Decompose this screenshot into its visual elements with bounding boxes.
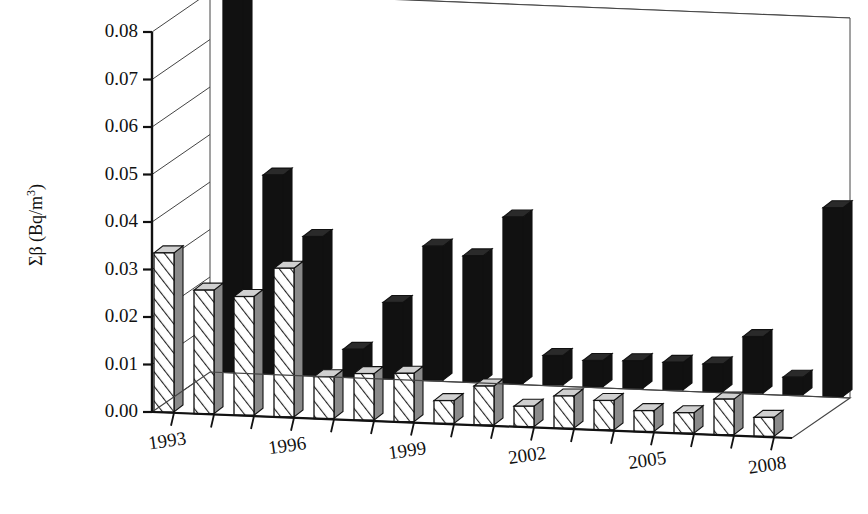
- y-tick-label: 0.03: [105, 258, 138, 279]
- bar-hatched-2006: [674, 406, 703, 433]
- bar-hatched-2005: [634, 404, 663, 432]
- bar-hatched-1999: [394, 366, 423, 421]
- x-tick-label-1993: 1993: [147, 427, 188, 453]
- bar-hatched-1996: [274, 261, 303, 417]
- bar-solid-2005: [703, 357, 732, 392]
- bar-solid-2000: [503, 210, 532, 383]
- x-tick-label-1999: 1999: [387, 437, 428, 463]
- bar-hatched-2002: [514, 399, 543, 426]
- bar-hatched-1998: [354, 367, 383, 421]
- bar-solid-1995: [303, 230, 332, 376]
- y-tick-label: 0.06: [105, 115, 138, 136]
- bar-chart-canvas: 0.000.010.020.030.040.050.060.070.08 199…: [0, 0, 868, 514]
- bar-solid-1998: [423, 239, 452, 380]
- bar-solid-2003: [623, 354, 652, 389]
- y-tick-label: 0.07: [105, 68, 138, 89]
- y-tick-label: 0.00: [105, 400, 138, 421]
- bar-hatched-1995: [234, 290, 263, 416]
- x-tick-label-2002: 2002: [507, 442, 548, 468]
- x-tick-label-2008: 2008: [747, 452, 788, 478]
- bar-hatched-2001: [474, 379, 503, 425]
- bar-hatched-2008: [754, 410, 783, 436]
- bar-hatched-1994: [194, 283, 223, 414]
- chart-figure: 0.000.010.020.030.040.050.060.070.08 199…: [0, 0, 868, 514]
- bar-hatched-2004: [594, 393, 623, 429]
- y-tick-label: 0.05: [105, 163, 138, 184]
- bar-hatched-2000: [434, 394, 463, 424]
- y-tick-label: 0.02: [105, 305, 138, 326]
- bar-hatched-1993: [154, 246, 183, 412]
- bar-solid-2006: [743, 330, 772, 394]
- y-tick-label: 0.04: [105, 210, 139, 231]
- x-tick-label-1996: 1996: [267, 432, 308, 458]
- y-tick-label: 0.08: [105, 20, 138, 41]
- y-tick-label: 0.01: [105, 353, 138, 374]
- bar-solid-2002: [583, 354, 612, 387]
- bar-solid-2001: [543, 349, 572, 385]
- bar-solid-1999: [463, 249, 492, 382]
- bar-hatched-2003: [554, 389, 583, 428]
- y-axis: 0.000.010.020.030.040.050.060.070.08: [105, 20, 152, 421]
- y-axis-title: Σβ (Bq/m3): [24, 184, 47, 266]
- bar-hatched-2007: [714, 392, 743, 435]
- bar-solid-2007: [783, 370, 812, 395]
- bar-solid-2008: [823, 201, 852, 397]
- x-tick-label-2005: 2005: [627, 447, 668, 473]
- bar-solid-2004: [663, 355, 692, 390]
- axis-labels: Σβ (Bq/m3): [24, 184, 47, 266]
